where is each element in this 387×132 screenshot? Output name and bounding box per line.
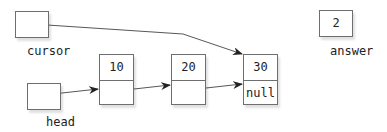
list-node-30: 30 null bbox=[243, 54, 278, 105]
cursor-variable-box bbox=[15, 11, 49, 38]
cursor-value bbox=[16, 12, 48, 37]
head-label: head bbox=[46, 115, 75, 129]
node-next-null: null bbox=[244, 80, 277, 106]
node-data: 20 bbox=[172, 55, 205, 80]
node-next bbox=[172, 80, 205, 106]
node-data: 10 bbox=[100, 55, 133, 80]
head-value bbox=[28, 84, 60, 109]
answer-variable-box: 2 bbox=[319, 10, 353, 37]
cursor-label: cursor bbox=[27, 44, 70, 58]
head-variable-box bbox=[27, 83, 61, 110]
answer-label: answer bbox=[330, 44, 373, 58]
list-node-10: 10 bbox=[99, 54, 134, 105]
list-node-20: 20 bbox=[171, 54, 206, 105]
answer-value: 2 bbox=[320, 11, 352, 36]
node-data: 30 bbox=[244, 55, 277, 80]
node-next bbox=[100, 80, 133, 106]
